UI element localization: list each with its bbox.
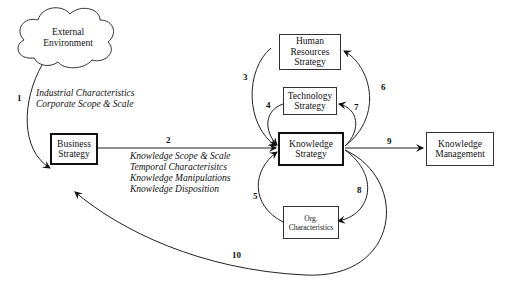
edge-label-4: 4 [266, 100, 271, 110]
node-label: Human [296, 36, 324, 46]
edge-10 [75, 150, 386, 275]
node-label: Management [435, 149, 485, 159]
edge-label-8: 8 [357, 185, 362, 195]
node-label: Strategy [294, 101, 326, 111]
edge-label-7: 7 [354, 102, 359, 112]
edge-1 [27, 65, 50, 168]
edge-label-2: 2 [166, 135, 171, 145]
node-label: Characteristics [289, 223, 334, 232]
node-org-characteristics: Org.Characteristics [283, 206, 339, 239]
edge-label-9: 9 [387, 136, 392, 146]
edge-label-6: 6 [381, 82, 386, 92]
edge-1-attributes: Industrial Characteristics Corporate Sco… [36, 88, 134, 110]
node-hr-strategy: HumanResourcesStrategy [279, 34, 341, 70]
node-label: Environment [43, 38, 93, 48]
node-label: Knowledge [289, 139, 333, 149]
node-label: Strategy [294, 57, 326, 67]
edge-2-attributes: Knowledge Scope & Scale Temporal Charact… [130, 151, 231, 195]
attribute-text: Knowledge Scope & Scale [130, 151, 231, 162]
edge-6 [344, 51, 370, 146]
node-label: Resources [290, 47, 329, 57]
node-knowledge-management: KnowledgeManagement [426, 132, 494, 166]
node-external-environment: External Environment [38, 27, 98, 48]
node-label: Knowledge [438, 139, 482, 149]
edge-3 [252, 48, 276, 146]
node-label: Strategy [295, 149, 327, 159]
node-label: Org. [304, 214, 317, 223]
node-label: Strategy [58, 149, 90, 159]
node-knowledge-strategy: KnowledgeStrategy [278, 132, 344, 166]
node-label: Business [57, 139, 91, 149]
attribute-text: Temporal Characterisitcs [130, 162, 231, 173]
node-label: Technology [288, 91, 333, 101]
edge-label-3: 3 [243, 72, 248, 82]
attribute-text: Industrial Characteristics [36, 88, 134, 99]
node-technology-strategy: TechnologyStrategy [283, 87, 337, 115]
attribute-text: Corporate Scope & Scale [36, 99, 134, 110]
attribute-text: Knowledge Manipulations [130, 173, 231, 184]
node-business-strategy: BusinessStrategy [50, 133, 98, 165]
edge-label-1: 1 [17, 93, 22, 103]
node-label: External [52, 27, 84, 37]
edge-label-5: 5 [253, 191, 258, 201]
attribute-text: Knowledge Disposition [130, 184, 231, 195]
knowledge-strategy-diagram: External Environment BusinessStrategy Hu… [0, 0, 512, 289]
edge-label-10: 10 [232, 250, 241, 260]
